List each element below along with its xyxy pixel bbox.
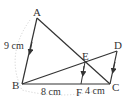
measure-fc: 4 cm xyxy=(85,85,105,96)
point-label-a: A xyxy=(33,6,41,18)
measure-bf: 8 cm xyxy=(41,86,61,97)
point-label-b: B xyxy=(12,79,19,91)
segment-ab xyxy=(22,18,37,84)
point-label-c: C xyxy=(112,81,119,93)
segment-ac xyxy=(37,18,110,84)
point-label-f: F xyxy=(76,86,82,98)
measure-ab: 9 cm xyxy=(4,40,24,51)
parallel-arrow-icon xyxy=(83,66,84,74)
point-label-d: D xyxy=(114,39,122,51)
point-label-e: E xyxy=(82,50,89,62)
segment-bd xyxy=(22,51,117,84)
geometry-diagram: A B C D E F 9 cm 8 cm 4 cm xyxy=(0,0,131,109)
